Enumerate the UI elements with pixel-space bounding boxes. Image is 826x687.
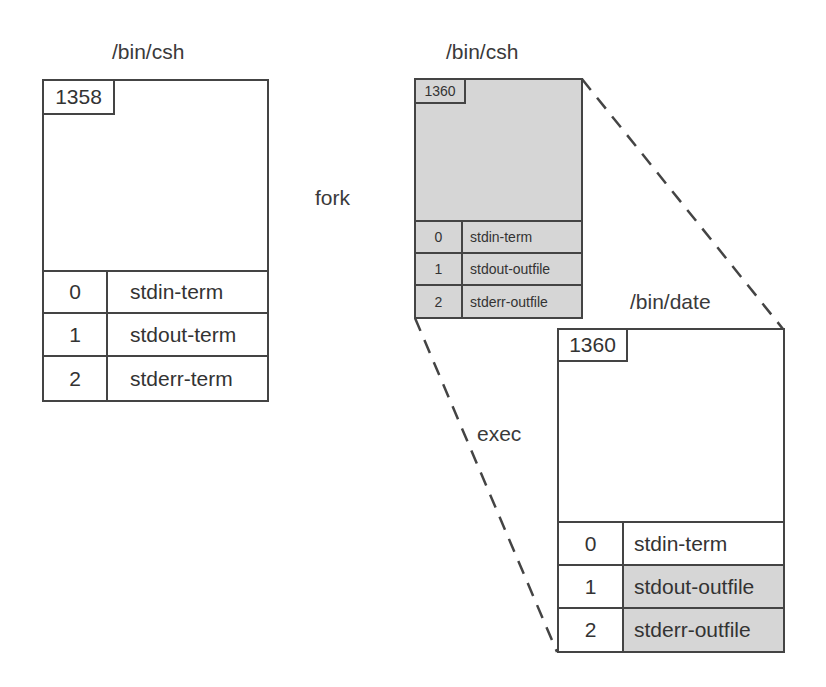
fd-target: stdin-term — [462, 221, 582, 253]
pid-label-forked: 1360 — [414, 78, 466, 104]
fd-row: 0 stdin-term — [415, 221, 582, 253]
program-label-forked: /bin/csh — [446, 40, 518, 64]
fd-row: 2 stderr-outfile — [558, 608, 784, 652]
program-label-parent: /bin/csh — [112, 40, 184, 64]
fd-row: 0 stdin-term — [558, 522, 784, 565]
fd-row: 2 stderr-term — [43, 356, 268, 401]
exec-label: exec — [477, 422, 521, 446]
dashed-line-bottom — [415, 318, 557, 652]
program-label-exec: /bin/date — [630, 290, 711, 314]
fd-row: 1 stdout-outfile — [558, 565, 784, 608]
fd-target: stdin-term — [107, 271, 268, 313]
fd-target: stdin-term — [623, 522, 784, 565]
fd-target: stdout-outfile — [462, 253, 582, 285]
fd-target: stderr-term — [107, 356, 268, 401]
fd-number: 1 — [558, 565, 623, 608]
fd-target: stderr-outfile — [623, 608, 784, 652]
pid-label-exec: 1360 — [557, 328, 628, 362]
fd-table-forked: 0 stdin-term 1 stdout-outfile 2 stderr-o… — [414, 220, 583, 319]
fd-number: 1 — [43, 313, 107, 356]
fd-table-parent: 0 stdin-term 1 stdout-term 2 stderr-term — [42, 270, 269, 402]
process-box-exec: 1360 0 stdin-term 1 stdout-outfile 2 std… — [557, 328, 785, 653]
fd-number: 0 — [43, 271, 107, 313]
fd-target: stderr-outfile — [462, 285, 582, 318]
process-box-parent: 1358 0 stdin-term 1 stdout-term 2 stderr… — [42, 79, 269, 402]
fd-number: 0 — [558, 522, 623, 565]
fd-number: 2 — [558, 608, 623, 652]
fd-target: stdout-term — [107, 313, 268, 356]
fd-row: 1 stdout-term — [43, 313, 268, 356]
fd-target: stdout-outfile — [623, 565, 784, 608]
fd-row: 2 stderr-outfile — [415, 285, 582, 318]
process-box-forked: 1360 0 stdin-term 1 stdout-outfile 2 std… — [414, 78, 583, 319]
fd-row: 0 stdin-term — [43, 271, 268, 313]
fd-number: 0 — [415, 221, 462, 253]
fd-number: 1 — [415, 253, 462, 285]
fd-table-exec: 0 stdin-term 1 stdout-outfile 2 stderr-o… — [557, 521, 785, 653]
fd-number: 2 — [415, 285, 462, 318]
pid-label-parent: 1358 — [42, 79, 115, 115]
fork-label: fork — [315, 186, 350, 210]
fd-number: 2 — [43, 356, 107, 401]
fd-row: 1 stdout-outfile — [415, 253, 582, 285]
